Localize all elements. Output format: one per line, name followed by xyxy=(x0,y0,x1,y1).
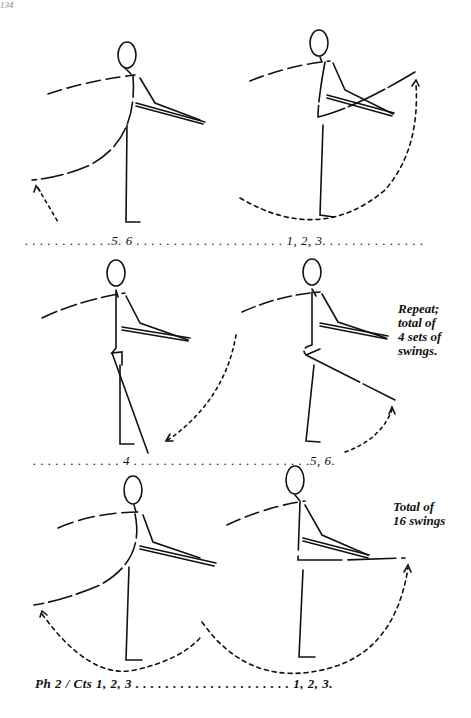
note-total-line1: Total of xyxy=(393,500,445,514)
count-line-row2: . . . . . . . . . . . . 4 . . . . . . . … xyxy=(33,453,335,469)
note-repeat: Repeat; total of 4 sets of swings. xyxy=(398,302,441,358)
count-line-row1: . . . . . . . . . . . .5. 6 . . . . . . … xyxy=(25,233,424,249)
figure-row2-right xyxy=(242,259,395,452)
note-repeat-line3: 4 sets of xyxy=(398,330,441,344)
note-total-line2: 16 swings xyxy=(393,514,445,528)
figure-row2-left xyxy=(42,260,236,453)
count-line-row3: Ph 2 / Cts 1, 2, 3 . . . . . . . . . . .… xyxy=(35,676,333,692)
note-repeat-line2: total of xyxy=(398,316,441,330)
figure-row3-left xyxy=(34,476,216,671)
figure-row1-right xyxy=(240,30,419,220)
note-repeat-line4: swings. xyxy=(398,344,441,358)
dance-figures-illustration xyxy=(0,0,471,718)
note-repeat-line1: Repeat; xyxy=(398,302,441,316)
figure-row1-left xyxy=(32,42,205,222)
figure-row3-right xyxy=(202,466,411,673)
note-total-swings: Total of 16 swings xyxy=(393,500,445,528)
